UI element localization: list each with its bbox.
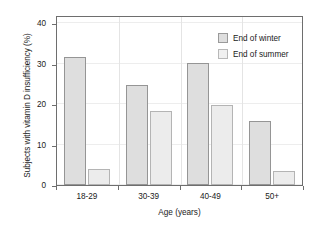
bar-40-49-summer (211, 105, 233, 185)
bar-18-29-winter (64, 57, 86, 185)
legend-swatch-summer-icon (218, 49, 228, 59)
chart-legend: End of winter End of summer (218, 31, 289, 63)
gridline-vertical (181, 17, 182, 185)
gridline-horizontal (57, 103, 302, 104)
legend-item-winter: End of winter (218, 31, 289, 45)
x-tick-mark (118, 186, 119, 190)
x-axis-title: Age (years) (56, 208, 303, 217)
legend-label-summer: End of summer (233, 50, 289, 59)
bar-50--summer (273, 171, 295, 185)
legend-swatch-winter-icon (218, 33, 228, 43)
bar-30-39-summer (150, 111, 172, 185)
x-tick-label-40-49: 40-49 (175, 192, 245, 201)
bar-18-29-summer (88, 169, 110, 185)
x-tick-mark (241, 186, 242, 190)
x-tick-label-50-: 50+ (237, 192, 307, 201)
bar-30-39-winter (126, 85, 148, 185)
y-tick-label: 20 (14, 100, 46, 109)
y-tick-label: 40 (14, 19, 46, 28)
x-tick-label-18-29: 18-29 (52, 192, 122, 201)
legend-item-summer: End of summer (218, 47, 289, 61)
y-tick-label: 10 (14, 141, 46, 150)
x-tick-mark (56, 186, 57, 190)
x-tick-label-30-39: 30-39 (114, 192, 184, 201)
bar-chart-figure: Subjects with vitamin D insufficiency (%… (0, 0, 319, 231)
bar-50--winter (249, 121, 271, 185)
gridline-vertical (119, 17, 120, 185)
x-tick-mark (180, 186, 181, 190)
gridline-horizontal (57, 22, 302, 23)
x-tick-mark (303, 186, 304, 190)
legend-label-winter: End of winter (233, 34, 281, 43)
bar-40-49-winter (187, 63, 209, 185)
y-tick-label: 30 (14, 60, 46, 69)
y-tick-label: 0 (14, 181, 46, 190)
